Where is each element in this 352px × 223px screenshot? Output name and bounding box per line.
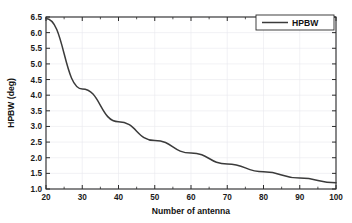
x-tick-label: 90 bbox=[295, 193, 305, 202]
x-tick-label: 40 bbox=[114, 193, 124, 202]
x-tick-label: 30 bbox=[78, 193, 88, 202]
x-tick-label: 50 bbox=[150, 193, 160, 202]
y-tick-label: 1.0 bbox=[31, 185, 43, 194]
y-tick-label: 6.0 bbox=[31, 29, 43, 38]
y-tick-label: 6.5 bbox=[31, 13, 43, 22]
x-tick-label: 60 bbox=[186, 193, 196, 202]
x-tick-label: 70 bbox=[223, 193, 233, 202]
chart-figure: 2030405060708090100 1.01.52.02.53.03.54.… bbox=[0, 0, 352, 223]
y-tick-label: 2.0 bbox=[31, 154, 43, 163]
x-axis-title: Number of antenna bbox=[152, 206, 231, 216]
chart-legend[interactable]: HPBW bbox=[256, 15, 334, 30]
y-tick-label: 2.5 bbox=[31, 138, 43, 147]
x-tick-label: 80 bbox=[259, 193, 269, 202]
x-tick-label: 100 bbox=[329, 193, 343, 202]
x-axis-tick-labels: 2030405060708090100 bbox=[41, 193, 343, 202]
y-tick-label: 4.0 bbox=[31, 91, 43, 100]
hpbw-line-chart: 2030405060708090100 1.01.52.02.53.03.54.… bbox=[0, 0, 352, 223]
x-tick-label: 20 bbox=[41, 193, 51, 202]
legend-label-hpbw: HPBW bbox=[292, 18, 319, 28]
y-tick-label: 3.0 bbox=[31, 122, 43, 131]
y-tick-label: 4.5 bbox=[31, 76, 43, 85]
y-tick-label: 3.5 bbox=[31, 107, 43, 116]
y-tick-label: 1.5 bbox=[31, 169, 43, 178]
y-axis-title: HPBW (deg) bbox=[6, 78, 16, 128]
y-tick-label: 5.5 bbox=[31, 44, 43, 53]
y-tick-label: 5.0 bbox=[31, 60, 43, 69]
